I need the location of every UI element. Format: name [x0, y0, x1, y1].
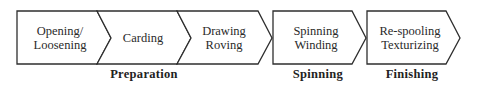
step-label-spinning: Spinning Winding	[273, 11, 359, 65]
step-label-respooling: Re-spooling Texturizing	[367, 11, 453, 65]
group-label-finishing: Finishing	[367, 67, 457, 83]
step-label-opening: Opening/ Loosening	[17, 11, 103, 65]
group-label-spinning: Spinning	[273, 67, 363, 83]
step-label-drawing: Drawing Roving	[184, 11, 264, 65]
step-label-carding: Carding	[104, 11, 182, 65]
group-label-preparation: Preparation	[94, 67, 194, 83]
